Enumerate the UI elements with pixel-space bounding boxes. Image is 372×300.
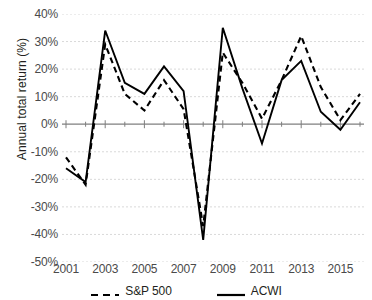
x-axis-tick-label: 2007	[171, 262, 197, 276]
y-axis-tick-label: 20%	[12, 62, 58, 76]
legend-item[interactable]: S&P 500	[90, 284, 171, 298]
x-axis-tick-label: 2013	[288, 262, 314, 276]
x-axis-tick-label: 2001	[53, 262, 79, 276]
legend-swatch-dashed-icon	[90, 286, 120, 296]
x-axis-tick-label: 2015	[327, 262, 353, 276]
chart-svg	[62, 14, 364, 262]
y-axis-tick-label: 10%	[12, 90, 58, 104]
data-series-group	[66, 28, 360, 240]
x-axis-tick-label: 2005	[131, 262, 157, 276]
y-axis-tick-label: 0%	[12, 117, 58, 131]
x-axis-tick-label: 2009	[210, 262, 236, 276]
y-axis-tick-labels: 40%30%20%10%0%-10%-20%-30%-40%-50%	[12, 0, 58, 300]
legend-item[interactable]: ACWI	[216, 284, 282, 298]
x-axis-tick-label: 2011	[249, 262, 274, 276]
plot-area	[62, 14, 364, 262]
series-line-acwi	[66, 28, 360, 240]
legend-label: ACWI	[251, 284, 282, 298]
legend-label: S&P 500	[125, 284, 171, 298]
chart-legend: S&P 500ACWI	[0, 281, 372, 300]
y-axis-tick-label: -20%	[12, 172, 58, 186]
y-axis-tick-label: -50%	[12, 255, 58, 269]
chart-container: Annual total return (%) 40%30%20%10%0%-1…	[0, 0, 372, 300]
y-axis-tick-label: -40%	[12, 227, 58, 241]
y-axis-tick-label: 40%	[12, 7, 58, 21]
y-axis-tick-label: 30%	[12, 35, 58, 49]
x-axis-tick-label: 2003	[92, 262, 118, 276]
legend-swatch-solid-icon	[216, 286, 246, 296]
y-axis-tick-label: -30%	[12, 200, 58, 214]
x-axis-tick-labels: 20012003200520072009201120132015	[62, 262, 364, 282]
y-axis-tick-label: -10%	[12, 145, 58, 159]
